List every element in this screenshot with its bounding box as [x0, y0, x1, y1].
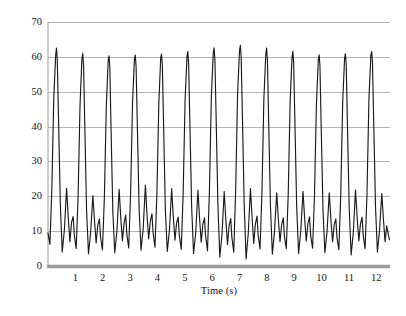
- knee-joint-angle-figure: Knee joint angle (°) Time (s) 0102030405…: [0, 0, 406, 316]
- knee-angle-data-line: [48, 45, 389, 259]
- chart-plot-area: [0, 0, 406, 316]
- gridlines: [48, 23, 390, 232]
